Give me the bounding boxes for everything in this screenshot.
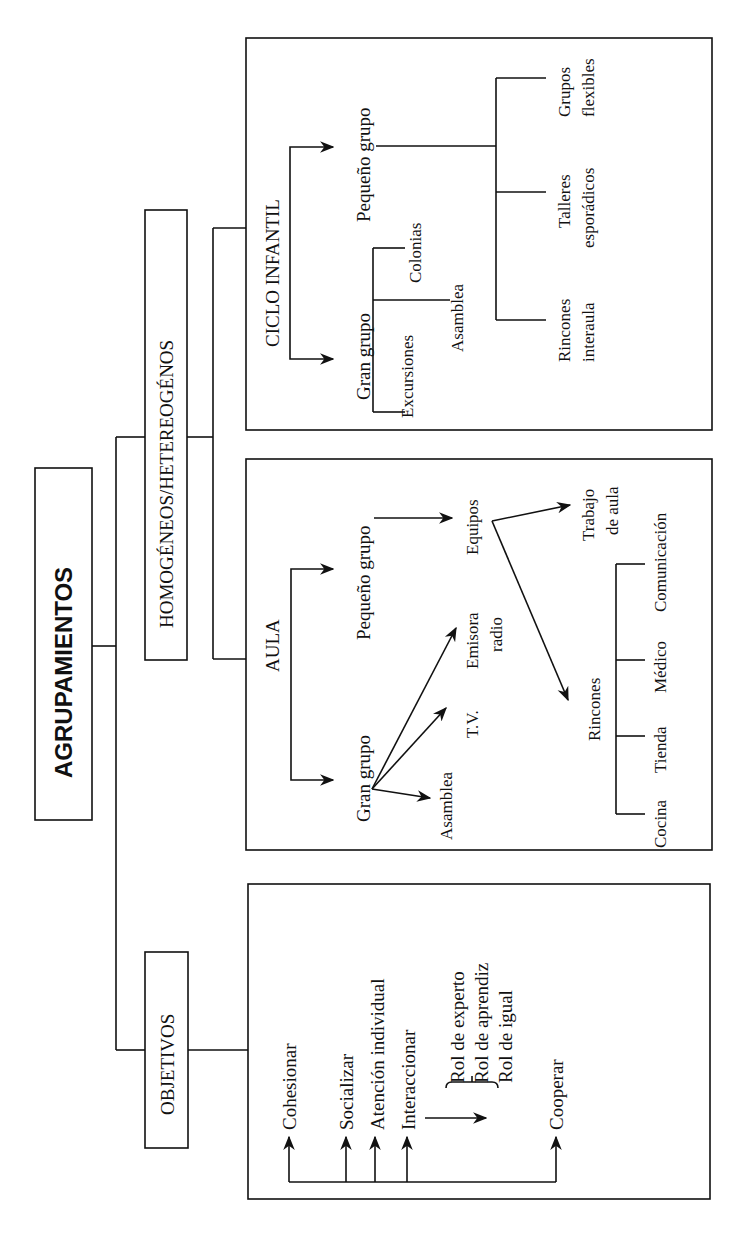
ci-grupos-flexibles-2: flexibles (579, 58, 598, 117)
obj-atencion-individual: Atención individual (367, 979, 388, 1130)
aula-rincones: Rincones (585, 678, 604, 741)
ci-rincones-interaula-2: interaula (579, 302, 598, 362)
ciclo-infantil-title: CICLO INFANTIL (262, 199, 283, 347)
rincon-comunicacion: Comunicación (651, 512, 670, 612)
ci-asamblea: Asamblea (448, 284, 467, 352)
aula-trabajo-1: Trabajo (579, 489, 598, 541)
obj-interaccionar: Interaccionar (398, 1029, 419, 1130)
aula-trabajo-2: de aula (603, 486, 622, 535)
rol-igual: Rol de igual (495, 990, 516, 1083)
ci-excursiones: Excursiones (398, 335, 417, 418)
obj-socializar: Socializar (336, 1053, 357, 1130)
aula-title: AULA (262, 619, 283, 672)
diagram-canvas: AGRUPAMIENTOS HOMOGÉNEOS/HETEREOGÉNOS OB… (0, 0, 750, 1234)
aula-emisora: Emisora (463, 612, 482, 669)
aula-gran-grupo: Gran grupo (353, 735, 374, 822)
root-label: AGRUPAMIENTOS (50, 567, 77, 778)
ci-rincones-interaula-1: Rincones (555, 299, 574, 362)
aula-pequeno-grupo: Pequeño grupo (353, 525, 374, 640)
obj-cohesionar: Cohesionar (279, 1043, 300, 1130)
homogeneos-label: HOMOGÉNEOS/HETEREOGÉNOS (156, 340, 177, 628)
rincon-cocina: Cocina (651, 799, 670, 848)
aula-radio: radio (487, 617, 506, 652)
aula-tv: T.V. (463, 710, 482, 738)
aula-asamblea: Asamblea (437, 772, 456, 840)
obj-cooperar: Cooperar (546, 1059, 567, 1130)
ci-talleres-1: Talleres (555, 174, 574, 228)
rincon-tienda: Tienda (651, 726, 670, 773)
ci-grupos-flexibles-1: Grupos (555, 67, 574, 117)
rol-aprendiz: Rol de aprendiz (471, 963, 492, 1083)
ci-colonias: Colonias (406, 223, 425, 283)
ci-pequeno-grupo: Pequeño grupo (353, 107, 374, 222)
ciclo-infantil-box (246, 38, 712, 430)
concept-map: AGRUPAMIENTOS HOMOGÉNEOS/HETEREOGÉNOS OB… (0, 0, 750, 1234)
objetivos-label: OBJETIVOS (157, 1014, 178, 1115)
rincon-medico: Médico (651, 641, 670, 693)
ci-talleres-2: esporádicos (579, 168, 598, 248)
ci-gran-grupo: Gran grupo (353, 313, 374, 400)
aula-equipos: Equipos (463, 499, 482, 555)
rol-experto: Rol de experto (447, 971, 468, 1083)
